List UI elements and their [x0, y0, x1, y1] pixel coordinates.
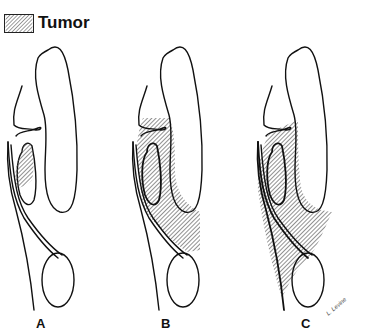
panel-label-c: C — [301, 316, 310, 331]
anatomical-diagram — [0, 0, 378, 334]
panel-label-a: A — [36, 316, 45, 331]
panel-b-drawing — [132, 47, 202, 310]
panel-label-b: B — [161, 316, 170, 331]
panel-c-drawing — [257, 47, 332, 310]
panel-a-drawing — [7, 47, 77, 310]
